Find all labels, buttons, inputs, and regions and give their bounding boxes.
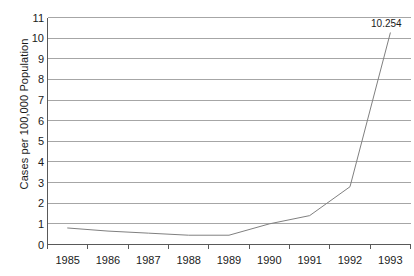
x-axis-tick-label: 1992	[327, 254, 373, 266]
x-axis-tick-label: 1993	[367, 254, 413, 266]
data-point-label: 10.254	[371, 19, 402, 29]
line-chart: Cases per 100,000 Population 01234567891…	[0, 0, 414, 276]
data-series	[68, 33, 391, 235]
x-axis-tick-label: 1990	[246, 254, 292, 266]
x-axis-tick-label: 1987	[125, 254, 171, 266]
x-axis-tick-label: 1988	[166, 254, 212, 266]
x-axis-tick-label: 1986	[85, 254, 131, 266]
x-axis-tick-label: 1985	[45, 254, 91, 266]
x-axis-ticks	[48, 245, 411, 249]
x-axis-tick-label: 1991	[287, 254, 333, 266]
axis-lines	[48, 18, 411, 245]
gridlines	[48, 18, 411, 245]
x-axis-tick-label: 1989	[206, 254, 252, 266]
plot-area	[0, 0, 414, 276]
